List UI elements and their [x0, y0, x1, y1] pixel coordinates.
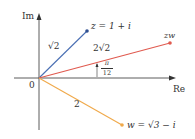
- zw-modulus-label: 2√2: [93, 44, 110, 53]
- z-modulus-label: √2: [48, 42, 59, 51]
- w-vector: [39, 78, 122, 125]
- w-point: [120, 123, 124, 127]
- z-point-label: z = 1 + i: [91, 22, 131, 31]
- angle-arrow-icon: [96, 63, 99, 67]
- origin-label: 0: [29, 81, 35, 90]
- z-vector: [39, 31, 87, 78]
- w-point-label: w = √3 − i: [127, 121, 176, 130]
- zw-point-label: zw: [164, 32, 175, 40]
- angle-label: π 12: [101, 60, 113, 76]
- real-axis-label: Re: [173, 85, 185, 94]
- angle-numerator: π: [101, 60, 113, 69]
- w-modulus-label: 2: [74, 100, 80, 109]
- imaginary-axis-label: Im: [22, 12, 34, 21]
- angle-denominator: 12: [101, 69, 113, 77]
- zw-point: [168, 41, 172, 45]
- real-axis-arrow-icon: [169, 76, 176, 81]
- z-point: [85, 29, 89, 33]
- imaginary-axis-arrow-icon: [37, 13, 42, 20]
